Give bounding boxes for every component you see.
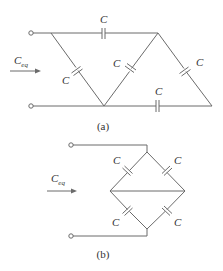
wire-a-mid-diag-1 (104, 72, 130, 107)
cap-b-ul-plate2 (123, 168, 131, 176)
circuit-a: C C C C C Ceq (a) (10, 13, 212, 133)
wire-b-lr-2 (147, 212, 165, 230)
caption-a: (a) (97, 120, 110, 133)
cap-a-left-label: C (62, 74, 70, 86)
cap-b-ul-plate1 (125, 166, 133, 174)
wire-b-lr-1 (167, 191, 185, 210)
wire-a-right-diag-1 (158, 33, 184, 69)
cap-b-lr-plate1 (164, 206, 172, 214)
circuit-b: C C C C Ceq (b) (47, 143, 185, 261)
terminal-b-bottom (69, 234, 73, 238)
cap-b-ll-label: C (112, 216, 120, 228)
terminal-b-top (69, 143, 73, 147)
cap-a-top-label: C (100, 13, 108, 25)
cap-a-bottom-label: C (155, 85, 163, 97)
cap-b-ul-label: C (113, 154, 121, 166)
cap-b-ll-plate1 (123, 206, 131, 214)
wire-b-top-lead (73, 145, 147, 152)
arrow-right-icon (35, 69, 41, 74)
cap-b-lr-label: C (174, 216, 182, 228)
cap-b-ur-plate2 (164, 168, 172, 176)
cap-b-ur-label: C (174, 154, 182, 166)
arrow-right-icon (71, 189, 77, 194)
cap-a-mid-label: C (113, 57, 121, 69)
caption-b: (b) (97, 248, 110, 261)
wire-b-ul-1 (130, 152, 148, 171)
wire-b-ll-2 (130, 212, 148, 230)
ceq-b-label: Ceq (51, 172, 65, 187)
wire-b-ll-1 (110, 191, 128, 210)
terminal-a-bottom (29, 104, 33, 108)
wire-a-right-diag-2 (186, 72, 212, 107)
wire-a-mid-diag-2 (132, 33, 159, 69)
ceq-a-label: Ceq (14, 54, 28, 69)
cap-b-lr-plate2 (162, 208, 170, 216)
cap-b-ur-plate1 (162, 166, 170, 174)
wire-a-left-diag-1 (51, 33, 76, 68)
wire-b-ul-2 (110, 173, 128, 192)
wire-b-ur-1 (147, 152, 165, 171)
wire-a-left-diag-2 (78, 71, 104, 107)
wire-b-bottom-lead (73, 229, 147, 236)
terminal-a-top (29, 31, 33, 35)
cap-b-ll-plate2 (125, 208, 133, 216)
wire-b-ur-2 (167, 173, 185, 192)
cap-a-right-label: C (196, 56, 204, 68)
circuit-figure: C C C C C Ceq (a) (0, 0, 223, 271)
